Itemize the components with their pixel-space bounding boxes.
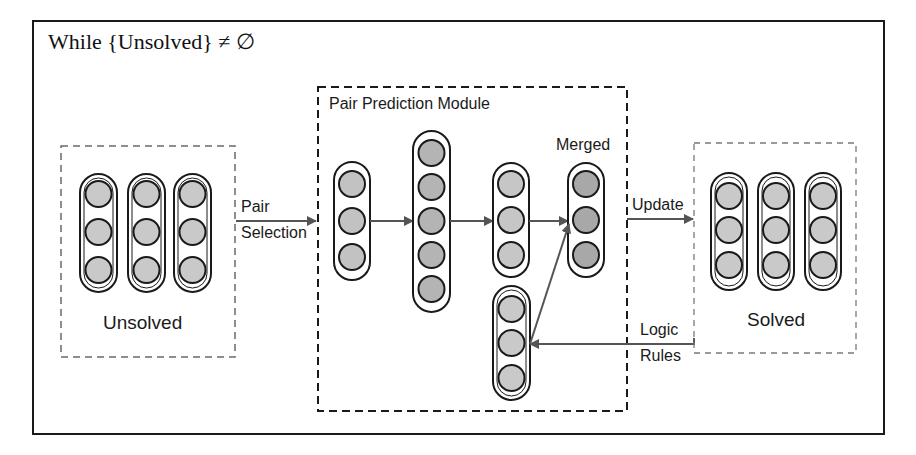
solved-column bbox=[711, 173, 747, 290]
logic-rules-label-line1: Logic bbox=[640, 322, 678, 338]
update-label: Update bbox=[632, 197, 684, 213]
solved-column bbox=[805, 173, 841, 290]
ppm-input-layer bbox=[334, 162, 370, 280]
ppm-output-layer bbox=[493, 163, 529, 277]
ppm-hidden-layer bbox=[413, 131, 450, 312]
ppm-rule-input-layer bbox=[493, 286, 530, 400]
pair-prediction-module-label: Pair Prediction Module bbox=[329, 96, 490, 112]
solved-column bbox=[758, 173, 794, 290]
pair-selection-label-line1: Pair bbox=[241, 199, 269, 215]
unsolved-column bbox=[80, 174, 117, 292]
unsolved-column bbox=[174, 174, 211, 292]
unsolved-label: Unsolved bbox=[103, 313, 182, 332]
diagram-canvas: While {Unsolved} ≠ ∅ bbox=[0, 0, 916, 455]
rule-to-merged-arrow bbox=[530, 224, 569, 344]
ppm-merged-layer bbox=[568, 163, 604, 277]
unsolved-column bbox=[128, 174, 165, 292]
logic-rules-arrow bbox=[530, 338, 694, 344]
merged-label: Merged bbox=[556, 137, 610, 153]
logic-rules-label-line2: Rules bbox=[640, 348, 681, 364]
pair-selection-label-line2: Selection bbox=[241, 225, 307, 241]
diagram-svg bbox=[0, 0, 916, 455]
solved-label: Solved bbox=[747, 310, 805, 329]
